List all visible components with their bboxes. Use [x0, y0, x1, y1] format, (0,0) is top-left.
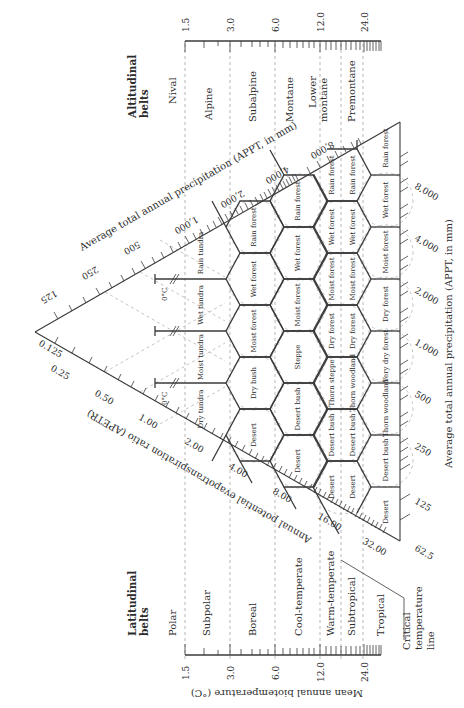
- bottom-tick-3-0: 3.0: [226, 665, 236, 680]
- precip-top-tick-4000: 4,000: [263, 164, 291, 186]
- zone-boreal-desert: Desert: [250, 423, 258, 447]
- zone-sub-thorn-woodland: Thorn woodland: [349, 354, 357, 412]
- zone-trop-desert: Desert: [382, 500, 390, 524]
- zone-boreal-moist-forest: Moist forest: [250, 309, 258, 352]
- top-tick-6-0: 6.0: [271, 17, 281, 32]
- latitudinal-belt-subpolar: Subpolar: [201, 590, 212, 636]
- zone-trop-wet-forest: Wet forest: [382, 182, 390, 219]
- bottom-temperature-scale: [185, 644, 381, 655]
- precip-top-tick-1000: 1,000: [172, 214, 200, 236]
- critical-line-label-1: Critical: [401, 612, 412, 650]
- zone-trop-desert-bush: Desert bush: [382, 438, 390, 481]
- zone-cool-wet-forest: Wet forest: [294, 235, 302, 272]
- pet-tick-4-00: 4.00: [227, 461, 250, 480]
- zone-boreal-wet-forest: Wet forest: [250, 261, 258, 298]
- precip-right-tick-1000: 1,000: [413, 337, 441, 359]
- top-temperature-scale: [185, 41, 381, 52]
- zone-cool-desert-bush: Desert bush: [294, 387, 302, 430]
- bottom-tick-6-0: 6.0: [271, 665, 281, 680]
- zone-sub-wet-forest: Wet forest: [349, 209, 357, 246]
- zone-trop-moist-forest: Moist forest: [382, 230, 390, 273]
- holdridge-life-zone-diagram: 0°C 0°C 1.5 3.0 6.0: [0, 0, 464, 708]
- zone-wet-tundra: Wet tundra: [197, 285, 205, 325]
- critical-line-label-3: line: [425, 631, 436, 650]
- altitudinal-belt-lower-montane: montane: [318, 78, 329, 122]
- frost-label-upper: 0°C: [161, 288, 169, 301]
- zone-trop-dry-forest: Dry forest: [382, 286, 390, 322]
- zones-tropical: Rain forest Wet forest Moist forest Dry …: [382, 128, 390, 524]
- zone-sub-rain-forest: Rain forest: [349, 155, 357, 194]
- latitudinal-belt-cool-temperate: Cool-temperate: [293, 557, 304, 636]
- zone-warm-desert-bush: Desert bush: [328, 413, 336, 456]
- pet-tick-32-00: 32.00: [361, 536, 389, 558]
- critical-line-label-2: temperature: [413, 586, 424, 650]
- zone-cool-rain-forest: Rain forest: [294, 181, 302, 220]
- precip-top-tick-500: 500: [122, 239, 142, 256]
- zone-trop-thorn-woodland: Thorn woodland: [382, 379, 390, 437]
- zone-cool-moist-forest: Moist forest: [294, 283, 302, 326]
- altitudinal-belt-alpine: Alpine: [203, 88, 214, 121]
- pet-tick-16-00: 16.00: [316, 511, 344, 533]
- zone-dry-tundra: Dry tundra: [197, 390, 205, 429]
- zone-warm-desert: Desert: [328, 475, 336, 499]
- zone-boreal-rain-forest: Rain forest: [250, 207, 258, 246]
- zone-warm-dry-forest: Dry forest: [328, 313, 336, 349]
- zones-warm-temperate: Rain forest Wet forest Moist forest Dry …: [328, 155, 336, 499]
- pet-tick-1-00: 1.00: [137, 412, 160, 431]
- zone-sub-moist-forest: Moist forest: [349, 257, 357, 300]
- bottom-tick-12-0: 12.0: [316, 662, 326, 682]
- top-tick-24-0: 24.0: [360, 12, 370, 32]
- biotemperature-axis-label: Mean annual biotemperature (°C): [191, 688, 363, 699]
- zone-rain-tundra: Rain tundra: [197, 232, 205, 274]
- precip-right-axis-label: Average total annual precipitation (APPT…: [443, 219, 454, 469]
- pet-tick-0-50: 0.50: [93, 388, 116, 407]
- latitudinal-belts-title-2: belts: [138, 607, 150, 636]
- zones-polar: Rain tundra Wet tundra Moist tundra Dry …: [197, 232, 205, 429]
- zone-warm-thorn-steppe: Thorn steppe: [328, 359, 336, 406]
- zones-boreal: Rain forest Wet forest Moist forest Dry …: [250, 207, 258, 447]
- zone-trop-rain-forest: Rain forest: [382, 128, 390, 167]
- precip-top-tick-125: 125: [39, 288, 59, 305]
- altitudinal-belt-nival: Nival: [167, 77, 178, 104]
- precip-right-tick-8000: 8,000: [413, 181, 441, 203]
- zone-moist-tundra: Moist tundra: [197, 334, 205, 380]
- precip-right-tick-125: 125: [413, 496, 433, 513]
- bottom-tick-24-0: 24.0: [360, 662, 370, 682]
- latitudinal-belt-subtropical: Subtropical: [346, 577, 357, 636]
- latitudinal-belts-title-1: Latitudinal: [126, 571, 138, 636]
- precip-right-tick-62-5: 62.5: [413, 543, 436, 562]
- diagram-canvas: 0°C 0°C 1.5 3.0 6.0: [0, 0, 464, 708]
- zone-trop-very-dry-forest: Very dry forest: [382, 329, 390, 383]
- altitudinal-belt-premontane: Premontane: [346, 60, 357, 122]
- zone-warm-wet-forest: Wet forest: [328, 209, 336, 246]
- precip-right-tick-500: 500: [413, 389, 433, 406]
- precip-top-tick-2000: 2,000: [218, 188, 246, 210]
- precip-right-tick-2000: 2,000: [413, 285, 441, 307]
- top-tick-3-0: 3.0: [226, 17, 236, 32]
- precip-top-axis-label: Average total annual precipitation (APPT…: [77, 119, 299, 253]
- zone-cool-steppe: Steppe: [294, 345, 302, 370]
- latitudinal-belt-polar: Polar: [167, 609, 178, 636]
- precip-right-tick-4000: 4,000: [413, 233, 441, 255]
- precip-right-ticks: [400, 152, 410, 520]
- altitudinal-belt-subalpine: Subalpine: [247, 71, 258, 122]
- precip-top-tick-250: 250: [80, 264, 100, 281]
- altitudinal-belt-lower: Lower: [307, 76, 318, 108]
- zone-boreal-dry-bush: Dry bush: [250, 366, 258, 399]
- zone-sub-desert: Desert: [349, 475, 357, 499]
- latitudinal-belt-tropical: Tropical: [375, 594, 386, 636]
- altitudinal-belts-title-1: Altitudinal: [126, 55, 138, 119]
- altitudinal-belts-title-2: belts: [138, 89, 150, 118]
- altitudinal-belt-montane: Montane: [284, 77, 295, 122]
- top-tick-12-0: 12.0: [316, 12, 326, 32]
- zone-sub-dry-forest: Dry forest: [349, 313, 357, 349]
- zones-subtropical: Rain forest Wet forest Moist forest Dry …: [349, 155, 357, 499]
- latitudinal-belt-boreal: Boreal: [247, 603, 258, 636]
- zones-cool-temperate: Rain forest Wet forest Moist forest Step…: [294, 181, 302, 473]
- zone-cool-desert: Desert: [294, 449, 302, 473]
- pet-axis-ticks: [55, 337, 386, 533]
- zone-sub-desert-bush: Desert bush: [349, 413, 357, 456]
- zone-warm-moist-forest: Moist forest: [328, 257, 336, 300]
- pet-tick-2-00: 2.00: [183, 436, 206, 455]
- top-tick-1-5: 1.5: [181, 17, 191, 32]
